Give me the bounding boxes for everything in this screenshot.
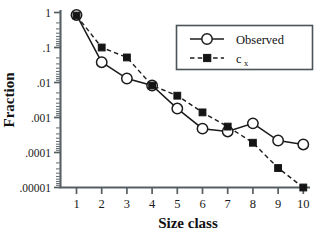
legend: Observed c x bbox=[177, 26, 313, 70]
data-point-observed-10 bbox=[298, 139, 308, 149]
y-tick-label-0.1: .1 bbox=[42, 42, 51, 54]
legend-label-observed: Observed bbox=[236, 33, 285, 47]
x-tick-label-5: 5 bbox=[174, 197, 180, 211]
y-tick-label-1: 1 bbox=[45, 7, 51, 19]
data-point-observed-2 bbox=[97, 57, 107, 67]
filled-square-icon bbox=[204, 54, 211, 61]
x-tick-label-7: 7 bbox=[225, 197, 231, 211]
open-circle-icon bbox=[202, 34, 212, 44]
data-point-cx-4 bbox=[149, 82, 156, 89]
data-point-observed-5 bbox=[172, 103, 182, 113]
chart-figure: Fraction bbox=[0, 0, 318, 234]
x-axis-title: Size class bbox=[158, 215, 218, 231]
data-point-observed-6 bbox=[197, 123, 207, 133]
legend-label-cx: c bbox=[236, 52, 242, 66]
data-point-cx-5 bbox=[174, 92, 181, 99]
y-tick-label-0.001: .001 bbox=[31, 112, 51, 124]
x-tick-label-10: 10 bbox=[297, 197, 310, 211]
data-point-cx-1 bbox=[73, 12, 80, 19]
data-point-cx-9 bbox=[275, 165, 282, 172]
chart-svg: Fraction bbox=[0, 0, 318, 234]
y-tick-label-0.01: .01 bbox=[37, 77, 52, 89]
x-tick-label-3: 3 bbox=[124, 197, 130, 211]
data-point-cx-3 bbox=[124, 54, 131, 61]
x-tick-label-6: 6 bbox=[199, 197, 205, 211]
x-tick-label-1: 1 bbox=[73, 197, 79, 211]
data-point-cx-6 bbox=[199, 109, 206, 116]
y-tick-label-0.0001: .0001 bbox=[25, 147, 51, 159]
data-point-observed-9 bbox=[273, 135, 283, 145]
y-tick-label-0.00001: .00001 bbox=[19, 182, 51, 194]
x-tick-label-2: 2 bbox=[99, 197, 105, 211]
y-axis-title: Fraction bbox=[1, 72, 17, 128]
data-point-cx-10 bbox=[300, 184, 307, 191]
x-tick-label-8: 8 bbox=[250, 197, 256, 211]
data-point-cx-8 bbox=[250, 139, 257, 146]
x-tick-label-4: 4 bbox=[149, 197, 156, 211]
data-point-cx-7 bbox=[224, 123, 231, 130]
data-point-observed-8 bbox=[248, 118, 258, 128]
data-point-observed-3 bbox=[122, 73, 132, 83]
data-point-cx-2 bbox=[98, 44, 105, 51]
x-tick-label-9: 9 bbox=[275, 197, 281, 211]
